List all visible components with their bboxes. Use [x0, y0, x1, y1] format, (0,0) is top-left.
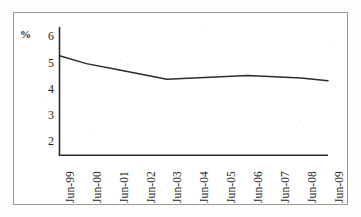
x-axis-tick-label: Jun-99: [64, 171, 76, 203]
x-axis-tick-label: Jun-07: [279, 171, 291, 203]
y-axis-tick-label: 3: [32, 108, 54, 123]
y-axis-tick-label: 2: [32, 134, 54, 149]
x-axis-tick-label: Jun-09: [333, 171, 345, 203]
x-axis-tick-label: Jun-08: [306, 171, 318, 203]
x-axis-tick-label: Jun-04: [198, 171, 210, 203]
x-axis-tick-label: Jun-01: [118, 171, 130, 203]
data-series-line: [60, 56, 329, 81]
x-axis-tick-label: Jun-06: [252, 171, 264, 203]
x-axis-tick-label: Jun-05: [225, 171, 237, 203]
x-axis-tick-label: Jun-00: [91, 171, 103, 203]
y-axis-tick-label: 6: [32, 29, 54, 44]
y-axis-unit-label: %: [20, 28, 31, 40]
y-axis-tick-label: 4: [32, 82, 54, 97]
y-axis-tick-label: 5: [32, 56, 54, 71]
x-axis-tick-label: Jun-02: [145, 171, 157, 203]
x-axis-tick-label: Jun-03: [171, 171, 183, 203]
chart-figure: % 65432 Jun-99Jun-00Jun-01Jun-02Jun-03Ju…: [0, 0, 361, 217]
